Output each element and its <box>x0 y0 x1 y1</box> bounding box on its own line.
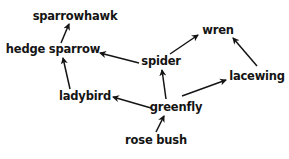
node-hedge-sparrow: hedge sparrow <box>6 44 100 56</box>
node-sparrowhawk: sparrowhawk <box>33 11 118 23</box>
food-web-diagram: sparrowhawk hedge sparrow wren spider la… <box>0 0 289 159</box>
node-rose-bush: rose bush <box>125 135 187 147</box>
arrow-spider-to-hedge-sparrow <box>100 53 139 63</box>
arrow-ladybird-to-hedge-sparrow <box>63 58 70 89</box>
node-greenfly: greenfly <box>150 102 203 114</box>
arrow-rose-bush-to-greenfly <box>156 116 164 132</box>
node-lacewing: lacewing <box>229 71 285 83</box>
node-wren: wren <box>202 25 233 37</box>
arrow-spider-to-wren <box>170 35 198 54</box>
arrow-greenfly-to-ladybird <box>113 97 151 108</box>
node-spider: spider <box>141 56 181 68</box>
arrow-lacewing-to-wren <box>233 38 257 66</box>
arrow-greenfly-to-lacewing <box>182 80 226 96</box>
node-ladybird: ladybird <box>59 91 111 103</box>
arrow-hedge-sparrow-to-sparrowhawk <box>61 24 69 43</box>
arrow-greenfly-to-spider <box>162 70 166 99</box>
